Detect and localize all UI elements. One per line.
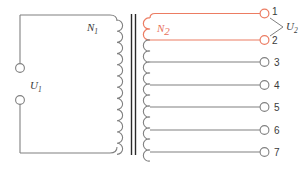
secondary-terminal-7 [260,148,269,157]
primary-circuit: N1 U1 [16,15,123,154]
secondary-circuit: 1 2 3 4 5 6 7 U2 N2 [143,6,298,162]
transformer-diagram-canvas: N1 U1 [0,0,308,170]
primary-winding-label: N1 [86,21,98,36]
secondary-terminal-number-7: 7 [274,147,280,158]
magnetic-core [132,14,136,155]
secondary-terminal-2 [260,36,269,45]
secondary-voltage-bracket [270,18,283,36]
primary-bottom-lead [20,147,117,153]
primary-terminal-top [16,64,25,73]
primary-top-lead [20,15,117,21]
secondary-terminal-number-5: 5 [274,102,280,113]
secondary-winding-section-n2 [143,18,150,40]
secondary-terminal-6 [260,126,269,135]
secondary-terminal-5 [260,103,269,112]
secondary-voltage-label: U2 [286,20,298,35]
secondary-terminal-number-3: 3 [274,57,280,68]
primary-voltage-label: U1 [30,79,42,94]
secondary-terminal-3 [260,58,269,67]
secondary-tap-lead-1 [150,14,260,19]
secondary-terminal-4 [260,81,269,90]
secondary-winding-label: N2 [156,22,170,37]
secondary-terminal-number-6: 6 [274,125,280,136]
primary-terminal-bottom [16,96,25,105]
secondary-terminal-number-1: 1 [272,6,278,17]
secondary-terminal-number-2: 2 [272,35,278,46]
secondary-winding-sections-taps [143,40,150,161]
secondary-terminal-1 [260,9,269,18]
secondary-terminal-number-4: 4 [274,80,280,91]
transformer-schematic: N1 U1 [0,0,308,170]
primary-winding-coil [117,20,123,154]
